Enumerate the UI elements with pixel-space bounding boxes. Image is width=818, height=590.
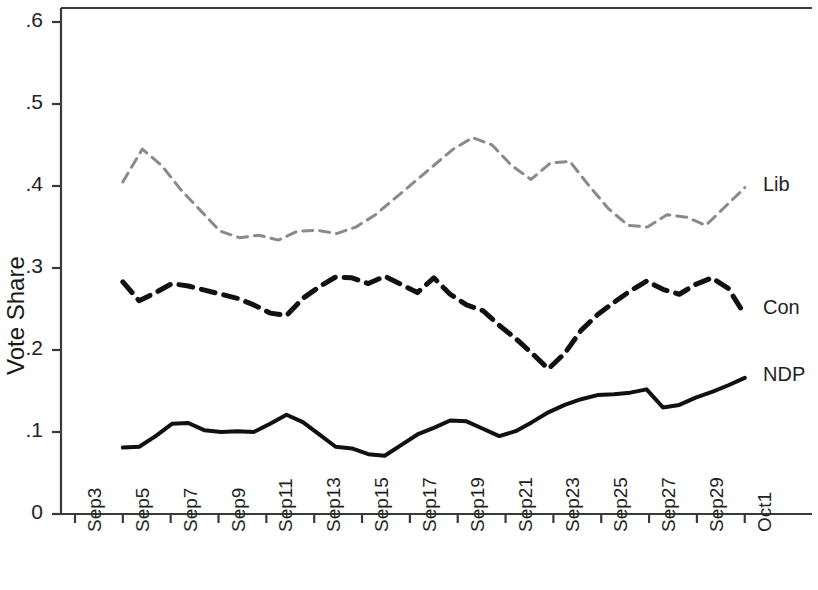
x-tick-label: Sep27 [658, 477, 680, 532]
x-tick-label: Sep19 [467, 477, 489, 532]
series-label-ndp: NDP [763, 363, 805, 386]
x-tick-label: Sep23 [562, 477, 584, 532]
x-tick-label: Sep3 [84, 488, 106, 532]
x-tick-label: Sep7 [180, 488, 202, 532]
series-label-lib: Lib [763, 173, 790, 196]
data-series-group [123, 138, 745, 456]
plot-frame [61, 8, 812, 514]
x-axis-ticks [75, 514, 745, 523]
series-line-con [123, 276, 745, 369]
y-tick-label: .3 [3, 254, 43, 278]
x-tick-label: Sep29 [706, 477, 728, 532]
y-tick-label: .1 [3, 418, 43, 442]
vote-share-chart: Vote Share 0.1.2.3.4.5.6 Sep3Sep5Sep7Sep… [0, 0, 818, 590]
x-tick-label: Sep9 [228, 488, 250, 532]
x-tick-label: Sep21 [515, 477, 537, 532]
y-tick-label: 0 [3, 500, 43, 524]
y-tick-label: .4 [3, 172, 43, 196]
y-tick-label: .2 [3, 336, 43, 360]
x-tick-label: Oct1 [754, 492, 776, 532]
y-tick-label: .5 [3, 90, 43, 114]
y-tick-label: .6 [3, 8, 43, 32]
y-axis-ticks [52, 22, 61, 514]
x-tick-label: Sep25 [610, 477, 632, 532]
series-label-con: Con [763, 296, 800, 319]
series-line-ndp [123, 378, 745, 456]
x-tick-label: Sep5 [132, 488, 154, 532]
series-line-lib [123, 138, 745, 241]
plot-canvas [0, 0, 818, 590]
x-tick-label: Sep11 [275, 478, 297, 532]
x-tick-label: Sep13 [323, 477, 345, 532]
x-tick-label: Sep17 [419, 477, 441, 532]
x-tick-label: Sep15 [371, 477, 393, 532]
